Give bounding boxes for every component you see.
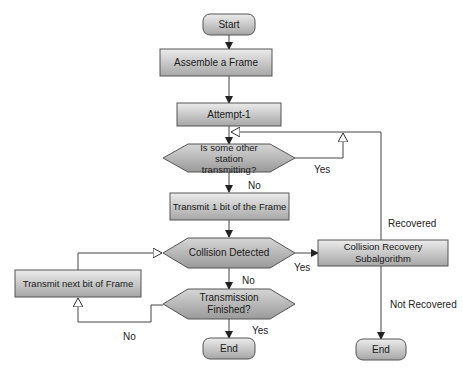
assemble-label: Assemble a Frame bbox=[160, 49, 272, 76]
edge-label-collision-no: No bbox=[242, 275, 255, 286]
transmit-next-label: Transmit next bit of Frame bbox=[15, 270, 141, 297]
collision-label: Collision Detected bbox=[188, 238, 270, 268]
check-label-line2: station transmitting? bbox=[188, 153, 270, 175]
edge-label-collision-yes: Yes bbox=[294, 262, 310, 273]
edge-label-finished-no: No bbox=[123, 331, 136, 342]
attempt-label: Attempt-1 bbox=[177, 103, 281, 126]
end-recovery-label: End bbox=[356, 339, 406, 360]
edge-label-not-recovered: Not Recovered bbox=[390, 299, 457, 310]
transmit-one-label: Transmit 1 bit of the Frame bbox=[170, 193, 289, 220]
edge-label-busy-no: No bbox=[248, 180, 261, 191]
edge-label-finished-yes: Yes bbox=[252, 325, 268, 336]
end-main-label: End bbox=[203, 338, 255, 359]
check-label-line1: Is some other bbox=[200, 142, 258, 153]
edge-label-recovered: Recovered bbox=[388, 218, 436, 229]
recovery-label: Collision Recovery Subalgorithm bbox=[318, 240, 448, 266]
check-label: Is some other station transmitting? bbox=[188, 144, 270, 172]
edge-label-busy-yes: Yes bbox=[314, 164, 330, 175]
start-label: Start bbox=[203, 14, 255, 35]
finished-label: Transmission Finished? bbox=[178, 289, 280, 319]
